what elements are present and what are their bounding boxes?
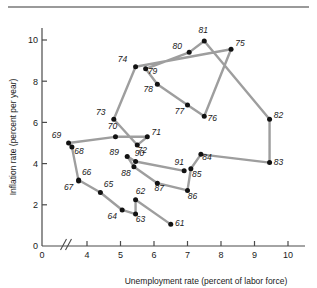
data-point-label-84: 84 [202, 152, 212, 162]
scatter-chart-canvas: 0246810045678910Unemployment rate (perce… [0, 0, 317, 288]
data-point-marker [202, 114, 207, 119]
y-tick-label: 10 [28, 35, 38, 45]
data-point-label-77: 77 [175, 106, 185, 116]
data-point-marker [145, 134, 150, 139]
data-point-label-76: 76 [208, 113, 218, 123]
data-point-label-91: 91 [174, 157, 184, 167]
data-point-marker [120, 207, 125, 212]
x-axis-title: Unemployment rate (percent of labor forc… [125, 276, 288, 286]
y-tick-label: 6 [33, 118, 38, 128]
data-point-marker [182, 168, 187, 173]
data-point-label-82: 82 [274, 110, 284, 120]
data-point-label-89: 89 [109, 147, 119, 157]
data-point-label-61: 61 [175, 218, 185, 228]
data-point-label-67: 67 [64, 182, 74, 192]
data-point-marker [133, 197, 138, 202]
data-point-marker [185, 102, 190, 107]
data-point-label-75: 75 [235, 38, 245, 48]
data-point-marker [168, 222, 173, 227]
data-point-label-62: 62 [136, 186, 146, 196]
data-point-marker [202, 39, 207, 44]
x-tick-label: 9 [252, 250, 257, 260]
data-point-marker [155, 82, 160, 87]
x-tick-label: 8 [218, 250, 223, 260]
x-tick-label: 10 [283, 250, 293, 260]
data-point-label-80: 80 [172, 41, 182, 51]
data-point-label-88: 88 [121, 168, 131, 178]
data-point-label-73: 73 [96, 107, 106, 117]
x-tick-label: 5 [118, 250, 123, 260]
data-point-label-90: 90 [135, 148, 145, 158]
data-point-label-69: 69 [52, 130, 62, 140]
data-point-marker [66, 141, 71, 146]
data-point-label-65: 65 [104, 179, 114, 189]
data-point-label-71: 71 [152, 127, 162, 137]
data-point-marker [111, 117, 116, 122]
y-axis-title: Inflation rate (percent per year) [8, 78, 18, 195]
data-point-marker [98, 190, 103, 195]
data-point-label-87: 87 [155, 183, 165, 193]
data-point-marker [125, 154, 130, 159]
data-point-marker [113, 134, 118, 139]
data-point-label-68: 68 [74, 146, 84, 156]
data-point-label-83: 83 [274, 157, 284, 167]
data-point-label-64: 64 [107, 211, 117, 221]
data-point-label-74: 74 [118, 54, 128, 64]
data-point-label-85: 85 [192, 169, 202, 179]
data-point-label-86: 86 [188, 191, 198, 201]
x-tick-label: 7 [185, 250, 190, 260]
data-point-marker [187, 50, 192, 55]
data-point-marker [267, 160, 272, 165]
phillips-curve-figure: 0246810045678910Unemployment rate (perce… [0, 0, 317, 288]
data-point-label-70: 70 [108, 121, 118, 131]
axis-break-slash [61, 239, 67, 250]
data-point-marker [131, 164, 136, 169]
data-point-marker [133, 64, 138, 69]
data-point-label-81: 81 [199, 25, 209, 35]
data-point-label-66: 66 [82, 167, 92, 177]
y-tick-label: 2 [33, 200, 38, 210]
data-point-marker [229, 47, 234, 52]
y-tick-label: 8 [33, 77, 38, 87]
axis-break-slash [66, 239, 72, 250]
data-point-label-79: 79 [148, 66, 158, 76]
data-point-marker [267, 117, 272, 122]
data-point-label-78: 78 [144, 84, 154, 94]
series-path [69, 41, 270, 224]
x-tick-label: 0 [39, 250, 44, 260]
x-tick-label: 6 [151, 250, 156, 260]
y-tick-label: 0 [33, 241, 38, 251]
data-point-marker [76, 179, 81, 184]
y-tick-label: 4 [33, 159, 38, 169]
x-tick-label: 4 [84, 250, 89, 260]
data-point-label-63: 63 [136, 214, 146, 224]
data-point-marker [133, 159, 138, 164]
